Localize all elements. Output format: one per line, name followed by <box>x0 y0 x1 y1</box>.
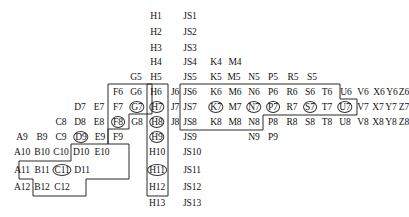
cell-k6[interactable]: K6 <box>210 87 221 98</box>
cell-e9[interactable]: E9 <box>95 132 105 143</box>
cell-h13[interactable]: H13 <box>149 198 165 209</box>
cell-c12[interactable]: C12 <box>54 182 70 193</box>
cell-y7[interactable]: Y7 <box>385 102 396 113</box>
cell-h11[interactable]: H11 <box>147 164 167 176</box>
cell-js11[interactable]: JS11 <box>183 165 201 176</box>
cell-j8[interactable]: J8 <box>171 117 179 128</box>
cell-p8[interactable]: P8 <box>268 117 278 128</box>
cell-r6[interactable]: R6 <box>287 87 298 98</box>
cell-m7[interactable]: M7 <box>229 102 242 113</box>
cell-h6[interactable]: H6 <box>150 87 161 98</box>
cell-js13[interactable]: JS13 <box>183 198 201 209</box>
cell-n8[interactable]: N8 <box>248 117 259 128</box>
cell-t7[interactable]: T7 <box>322 102 332 113</box>
cell-h10[interactable]: H10 <box>149 147 165 158</box>
cell-k4[interactable]: K4 <box>210 57 221 68</box>
cell-y6[interactable]: Y6 <box>386 87 397 98</box>
cell-js4[interactable]: JS4 <box>183 57 196 68</box>
cell-r8[interactable]: R8 <box>287 117 298 128</box>
cell-d7[interactable]: D7 <box>74 102 85 113</box>
cell-c8[interactable]: C8 <box>56 117 67 128</box>
cell-s7[interactable]: S7 <box>303 101 317 113</box>
cell-k8[interactable]: K8 <box>210 117 221 128</box>
cell-b10[interactable]: B10 <box>34 147 50 158</box>
cell-p6[interactable]: P6 <box>268 87 278 98</box>
cell-e10[interactable]: E10 <box>94 147 109 158</box>
cell-h5[interactable]: H5 <box>150 72 161 83</box>
cell-f9[interactable]: F9 <box>113 132 123 143</box>
cell-c10[interactable]: C10 <box>53 147 69 158</box>
cell-z7[interactable]: Z7 <box>399 102 409 113</box>
cell-f7[interactable]: F7 <box>113 102 123 113</box>
cell-s5[interactable]: S5 <box>307 72 317 83</box>
cell-d9[interactable]: D9 <box>73 131 88 143</box>
cell-u6[interactable]: U6 <box>340 87 351 98</box>
cell-js9[interactable]: JS9 <box>183 132 196 143</box>
cell-h2[interactable]: H2 <box>150 27 161 38</box>
cell-js3[interactable]: JS3 <box>183 43 196 54</box>
cell-s8[interactable]: S8 <box>305 117 315 128</box>
cell-g8[interactable]: G8 <box>131 117 142 128</box>
cell-g5[interactable]: G5 <box>130 72 141 83</box>
cell-js2[interactable]: JS2 <box>183 27 196 38</box>
cell-b12[interactable]: B12 <box>34 182 50 193</box>
cell-n7[interactable]: N7 <box>246 101 261 113</box>
cell-p7[interactable]: P7 <box>266 101 280 113</box>
cell-t6[interactable]: T6 <box>322 87 332 98</box>
cell-js6[interactable]: JS6 <box>183 87 196 98</box>
cell-js7[interactable]: JS7 <box>183 102 196 113</box>
cell-m6[interactable]: M6 <box>229 87 242 98</box>
cell-k5[interactable]: K5 <box>210 72 221 83</box>
cell-h9[interactable]: H9 <box>149 131 164 143</box>
cell-f6[interactable]: F6 <box>113 87 123 98</box>
cell-d10[interactable]: D10 <box>73 147 89 158</box>
cell-b11[interactable]: B11 <box>34 165 49 176</box>
cell-n9[interactable]: N9 <box>248 132 259 143</box>
cell-h4[interactable]: H4 <box>150 57 161 68</box>
cell-n5[interactable]: N5 <box>248 72 259 83</box>
cell-v6[interactable]: V6 <box>357 87 368 98</box>
cell-k7[interactable]: K7 <box>208 101 223 113</box>
cell-t8[interactable]: T8 <box>322 117 332 128</box>
cell-d11[interactable]: D11 <box>74 165 90 176</box>
cell-h1[interactable]: H1 <box>150 11 161 22</box>
cell-u7[interactable]: U7 <box>337 101 352 113</box>
cell-m4[interactable]: M4 <box>229 57 242 68</box>
cell-v7[interactable]: V7 <box>357 102 368 113</box>
cell-c11[interactable]: C11 <box>52 164 71 176</box>
cell-a9[interactable]: A9 <box>16 132 27 143</box>
cell-y8[interactable]: Y8 <box>385 117 396 128</box>
cell-a11[interactable]: A11 <box>14 165 30 176</box>
cell-e7[interactable]: E7 <box>94 102 104 113</box>
cell-r5[interactable]: R5 <box>288 72 299 83</box>
cell-x6[interactable]: X6 <box>373 87 384 98</box>
cell-x8[interactable]: X8 <box>372 117 383 128</box>
cell-g7[interactable]: G7 <box>129 101 144 113</box>
cell-h3[interactable]: H3 <box>150 43 161 54</box>
cell-m8[interactable]: M8 <box>229 117 242 128</box>
cell-p5[interactable]: P5 <box>268 72 278 83</box>
cell-a10[interactable]: A10 <box>14 147 30 158</box>
cell-x7[interactable]: X7 <box>372 102 383 113</box>
cell-u8[interactable]: U8 <box>339 117 350 128</box>
cell-j6[interactable]: J6 <box>171 87 179 98</box>
cell-s6[interactable]: S6 <box>305 87 315 98</box>
cell-p9[interactable]: P9 <box>268 132 278 143</box>
cell-z8[interactable]: Z8 <box>399 117 409 128</box>
cell-j7[interactable]: J7 <box>171 102 179 113</box>
cell-m5[interactable]: M5 <box>228 72 241 83</box>
cell-h7[interactable]: H7 <box>149 101 164 113</box>
cell-js10[interactable]: JS10 <box>183 147 201 158</box>
cell-r7[interactable]: R7 <box>287 102 298 113</box>
cell-js8[interactable]: JS8 <box>183 117 196 128</box>
cell-js5[interactable]: JS5 <box>183 72 196 83</box>
cell-a12[interactable]: A12 <box>14 182 30 193</box>
cell-h8[interactable]: H8 <box>149 116 164 128</box>
cell-js1[interactable]: JS1 <box>183 11 196 22</box>
cell-f8[interactable]: F8 <box>111 116 125 128</box>
cell-n6[interactable]: N6 <box>248 87 259 98</box>
cell-js12[interactable]: JS12 <box>183 182 201 193</box>
cell-g6[interactable]: G6 <box>130 87 141 98</box>
cell-b9[interactable]: B9 <box>37 132 48 143</box>
cell-v8[interactable]: V8 <box>357 117 368 128</box>
